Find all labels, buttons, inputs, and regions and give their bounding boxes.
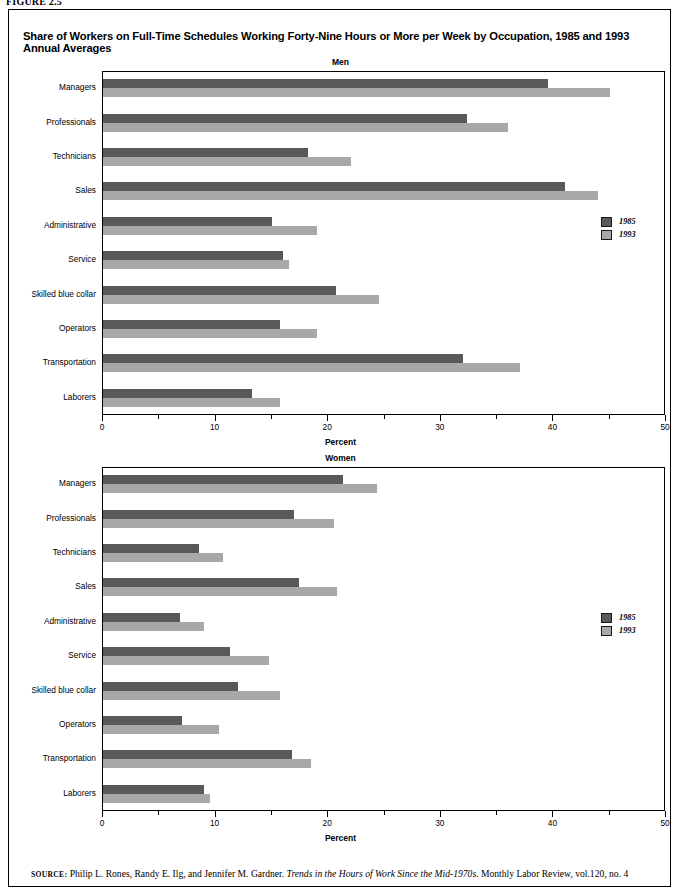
x-axis-tick-40 bbox=[552, 811, 553, 817]
bar-women-managers-1993 bbox=[103, 484, 377, 493]
x-axis-tick-30 bbox=[440, 415, 441, 421]
x-axis-tick-20 bbox=[327, 415, 328, 421]
bar-women-administrative-1993 bbox=[103, 622, 204, 631]
x-axis-title-men: Percent bbox=[9, 437, 672, 447]
x-axis-tick-label-0: 0 bbox=[87, 422, 117, 432]
source-authors: Philip L. Rones, Randy E. Ilg, and Jenni… bbox=[70, 868, 285, 879]
legend-women: 19851993 bbox=[601, 611, 636, 637]
y-axis-label-professionals: Professionals bbox=[0, 117, 96, 127]
chart-panel-men: Men ManagersProfessionalsTechniciansSale… bbox=[9, 57, 672, 447]
bar-women-operators-1993 bbox=[103, 725, 219, 734]
x-axis-minor-tick-35 bbox=[496, 811, 497, 815]
bar-men-transportation-1985 bbox=[103, 354, 463, 363]
y-axis-label-technicians: Technicians bbox=[0, 151, 96, 161]
figure-container: Share of Workers on Full-Time Schedules … bbox=[8, 9, 671, 887]
bar-men-laborers-1993 bbox=[103, 398, 280, 407]
chart-title-men: Men bbox=[9, 57, 672, 67]
bar-women-sales-1985 bbox=[103, 578, 299, 587]
bar-women-transportation-1993 bbox=[103, 759, 311, 768]
y-axis-label-sales: Sales bbox=[0, 185, 96, 195]
bar-men-operators-1993 bbox=[103, 329, 317, 338]
x-axis-title-women: Percent bbox=[9, 833, 672, 843]
x-axis-tick-10 bbox=[215, 811, 216, 817]
bar-men-operators-1985 bbox=[103, 320, 280, 329]
bar-women-operators-1985 bbox=[103, 716, 182, 725]
y-axis-label-managers: Managers bbox=[0, 82, 96, 92]
x-axis-minor-tick-5 bbox=[158, 415, 159, 419]
y-axis-label-managers: Managers bbox=[0, 478, 96, 488]
x-axis-tick-0 bbox=[102, 811, 103, 817]
y-axis-label-service: Service bbox=[0, 650, 96, 660]
x-axis-minor-tick-25 bbox=[384, 415, 385, 419]
bar-women-administrative-1985 bbox=[103, 613, 180, 622]
bar-women-sales-1993 bbox=[103, 587, 337, 596]
y-axis-label-technicians: Technicians bbox=[0, 547, 96, 557]
bar-men-professionals-1985 bbox=[103, 114, 467, 123]
legend-label-1993: 1993 bbox=[619, 230, 636, 239]
bar-men-sales-1993 bbox=[103, 191, 598, 200]
chart-title-women: Women bbox=[9, 453, 672, 463]
source-note: SOURCE: Philip L. Rones, Randy E. Ilg, a… bbox=[31, 868, 671, 880]
y-axis-label-skilled-blue-collar: Skilled blue collar bbox=[0, 289, 96, 299]
x-axis-tick-20 bbox=[327, 811, 328, 817]
bar-men-administrative-1985 bbox=[103, 217, 272, 226]
y-axis-label-administrative: Administrative bbox=[0, 616, 96, 626]
legend-label-1985: 1985 bbox=[619, 217, 636, 226]
x-axis-tick-50 bbox=[665, 811, 666, 817]
bar-women-skilled-blue-collar-1985 bbox=[103, 682, 238, 691]
x-axis-tick-label-30: 30 bbox=[425, 818, 455, 828]
y-axis-label-operators: Operators bbox=[0, 719, 96, 729]
x-axis-tick-30 bbox=[440, 811, 441, 817]
bar-women-laborers-1993 bbox=[103, 794, 210, 803]
bar-men-administrative-1993 bbox=[103, 226, 317, 235]
legend-label-1993: 1993 bbox=[619, 626, 636, 635]
x-axis-minor-tick-15 bbox=[271, 811, 272, 815]
x-axis-tick-label-40: 40 bbox=[537, 422, 567, 432]
x-axis-tick-label-50: 50 bbox=[650, 818, 679, 828]
chart-panel-women: Women ManagersProfessionalsTechniciansSa… bbox=[9, 453, 672, 843]
y-axis-label-service: Service bbox=[0, 254, 96, 264]
bar-men-managers-1993 bbox=[103, 88, 610, 97]
bar-men-technicians-1985 bbox=[103, 148, 308, 157]
x-axis-minor-tick-35 bbox=[496, 415, 497, 419]
x-axis-tick-label-0: 0 bbox=[87, 818, 117, 828]
legend-label-1985: 1985 bbox=[619, 613, 636, 622]
x-axis-tick-50 bbox=[665, 415, 666, 421]
legend-swatch-1985 bbox=[601, 217, 612, 227]
figure-number: FIGURE 2.5 bbox=[6, 0, 62, 7]
x-axis-tick-label-10: 10 bbox=[200, 422, 230, 432]
x-axis-tick-0 bbox=[102, 415, 103, 421]
y-axis-label-professionals: Professionals bbox=[0, 513, 96, 523]
y-axis-label-administrative: Administrative bbox=[0, 220, 96, 230]
bar-women-transportation-1985 bbox=[103, 750, 292, 759]
bar-men-skilled-blue-collar-1985 bbox=[103, 286, 336, 295]
bar-women-skilled-blue-collar-1993 bbox=[103, 691, 280, 700]
x-axis-minor-tick-15 bbox=[271, 415, 272, 419]
y-axis-label-laborers: Laborers bbox=[0, 788, 96, 798]
y-axis-label-transportation: Transportation bbox=[0, 753, 96, 763]
bar-men-sales-1985 bbox=[103, 182, 565, 191]
bar-women-service-1993 bbox=[103, 656, 269, 665]
x-axis-tick-label-30: 30 bbox=[425, 422, 455, 432]
y-axis-label-transportation: Transportation bbox=[0, 357, 96, 367]
x-axis-tick-label-20: 20 bbox=[312, 818, 342, 828]
bar-women-managers-1985 bbox=[103, 475, 343, 484]
bar-women-laborers-1985 bbox=[103, 785, 204, 794]
x-axis-tick-10 bbox=[215, 415, 216, 421]
x-axis-minor-tick-25 bbox=[384, 811, 385, 815]
bar-men-professionals-1993 bbox=[103, 123, 508, 132]
bar-women-professionals-1993 bbox=[103, 519, 334, 528]
source-publication: Monthly Labor Review, vol.120, no. 4 bbox=[481, 868, 628, 879]
source-prefix: SOURCE: bbox=[31, 870, 67, 879]
legend-swatch-1993 bbox=[601, 626, 612, 636]
legend-item-1985: 1985 bbox=[601, 215, 636, 228]
x-axis-tick-label-20: 20 bbox=[312, 422, 342, 432]
legend-item-1985: 1985 bbox=[601, 611, 636, 624]
bar-men-service-1993 bbox=[103, 260, 289, 269]
x-axis-tick-label-40: 40 bbox=[537, 818, 567, 828]
bar-women-technicians-1993 bbox=[103, 553, 223, 562]
legend-men: 19851993 bbox=[601, 215, 636, 241]
bar-men-laborers-1985 bbox=[103, 389, 252, 398]
legend-item-1993: 1993 bbox=[601, 228, 636, 241]
bar-men-technicians-1993 bbox=[103, 157, 351, 166]
